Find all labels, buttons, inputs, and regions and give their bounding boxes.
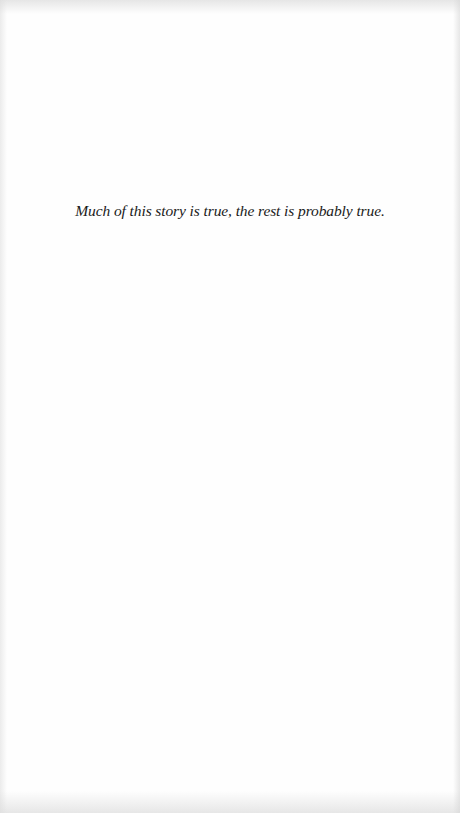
book-page: Much of this story is true, the rest is … — [0, 0, 460, 813]
epigraph: Much of this story is true, the rest is … — [0, 202, 460, 220]
scan-edge-bottom — [0, 791, 460, 813]
scan-edge-top — [0, 0, 460, 14]
scan-edge-left — [0, 0, 7, 813]
scan-edge-right — [453, 0, 460, 813]
